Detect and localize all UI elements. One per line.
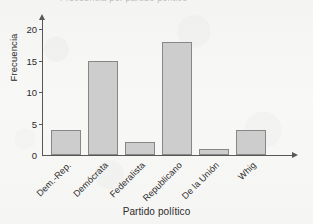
y-tick-label: 0: [18, 150, 37, 161]
bar-chart: Frecuencia 05101520 Dem.-Rep.DemócrataFe…: [0, 0, 313, 224]
chart-screenshot: Frecuencia por partido político Frecuenc…: [0, 0, 313, 224]
x-axis-title: Partido político: [0, 206, 313, 217]
y-tick-label: 5: [18, 118, 37, 129]
y-tick-label: 10: [18, 87, 37, 98]
y-axis-arrow-icon: [39, 14, 45, 20]
bar: [51, 130, 81, 155]
y-axis-title: Frecuencia: [8, 8, 19, 108]
bar: [88, 61, 118, 156]
bar: [125, 142, 155, 155]
y-tick-label: 20: [18, 24, 37, 35]
bar: [236, 130, 266, 155]
bar: [162, 42, 192, 155]
x-axis-line: [42, 155, 292, 156]
x-axis-arrow-icon: [292, 152, 298, 158]
y-tick-label: 15: [18, 55, 37, 66]
bar: [199, 149, 229, 155]
y-axis-line: [42, 20, 43, 155]
